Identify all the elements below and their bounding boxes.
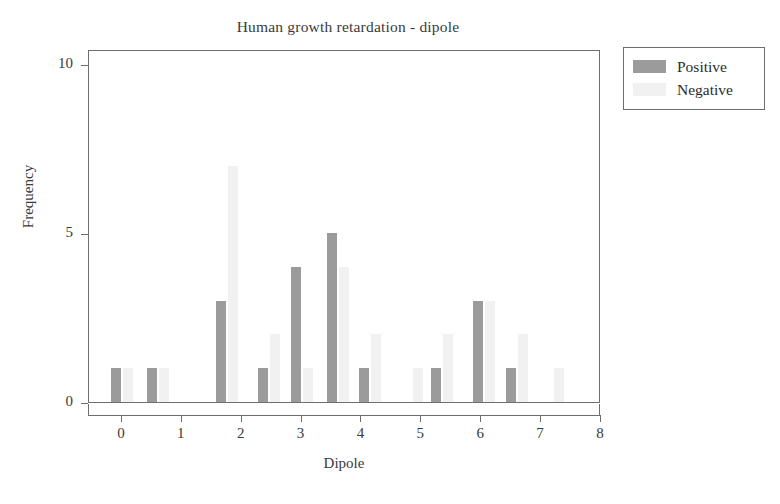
x-tick-mark: [480, 415, 481, 422]
legend-label: Positive: [677, 58, 727, 76]
bar-negative: [303, 368, 313, 402]
x-tick-label: 4: [345, 425, 375, 442]
bar-positive: [431, 368, 441, 402]
chart-figure: Human growth retardation - dipole Freque…: [0, 0, 780, 504]
x-tick-mark: [241, 415, 242, 422]
bar-negative: [371, 334, 381, 402]
bar-negative: [123, 368, 133, 402]
x-tick-mark: [181, 415, 182, 422]
x-axis-title: Dipole: [88, 455, 600, 472]
legend-item: Positive: [633, 55, 756, 78]
x-tick-mark: [360, 415, 361, 422]
x-tick-label: 0: [106, 425, 136, 442]
bar-positive: [111, 368, 121, 402]
bar-negative: [413, 368, 423, 402]
bar-negative: [443, 334, 453, 402]
bar-negative: [228, 166, 238, 402]
y-tick-mark: [81, 234, 88, 235]
bar-positive: [506, 368, 516, 402]
x-tick-mark: [420, 415, 421, 422]
bars-layer: [89, 51, 599, 402]
x-tick-mark: [301, 415, 302, 422]
bar-negative: [518, 334, 528, 402]
bar-negative: [270, 334, 280, 402]
x-tick-mark: [600, 415, 601, 422]
legend-swatch-negative: [633, 83, 666, 96]
legend-label: Negative: [677, 81, 733, 99]
bar-positive: [216, 301, 226, 402]
x-tick-label: 1: [166, 425, 196, 442]
bar-negative: [159, 368, 169, 402]
plot-area: [88, 50, 600, 403]
x-tick-label: 6: [465, 425, 495, 442]
chart-legend: PositiveNegative: [623, 47, 765, 110]
bar-negative: [485, 301, 495, 402]
bar-positive: [473, 301, 483, 402]
bar-negative: [554, 368, 564, 402]
x-tick-label: 5: [405, 425, 435, 442]
legend-swatch-positive: [633, 60, 666, 73]
x-tick-label: 8: [585, 425, 615, 442]
y-axis-title: Frequency: [20, 107, 37, 287]
chart-title: Human growth retardation - dipole: [88, 18, 608, 36]
x-axis-line: [88, 415, 600, 416]
bar-positive: [258, 368, 268, 402]
bar-negative: [339, 267, 349, 402]
y-tick-mark: [81, 403, 88, 404]
y-tick-label: 10: [33, 55, 73, 72]
bar-positive: [291, 267, 301, 402]
x-tick-mark: [540, 415, 541, 422]
x-tick-label: 2: [226, 425, 256, 442]
x-tick-label: 3: [286, 425, 316, 442]
bar-positive: [327, 233, 337, 402]
legend-item: Negative: [633, 78, 756, 101]
y-tick-label: 5: [33, 224, 73, 241]
y-tick-mark: [81, 65, 88, 66]
bar-positive: [147, 368, 157, 402]
bar-positive: [359, 368, 369, 402]
y-tick-label: 0: [33, 393, 73, 410]
x-tick-mark: [121, 415, 122, 422]
x-tick-label: 7: [525, 425, 555, 442]
